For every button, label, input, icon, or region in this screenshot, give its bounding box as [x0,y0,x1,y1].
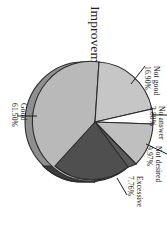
slice-label-excessive-name: Excessive [135,176,144,207]
rotated-chart-canvas: Improvement of roads [0,0,167,231]
slice-label-good: Good 61.50% [10,103,27,127]
slice-label-no-answer-value: 3.88% [148,106,157,140]
slice-label-good-name: Good [19,103,28,120]
slice-label-no-answer: No answer 3.88% [148,106,165,140]
slice-label-excessive-value: 7.76% [126,176,135,207]
pie-chart-figure: Improvement of roads [0,0,167,231]
slice-label-not-desired: Not desired 9.97% [145,146,162,182]
slice-label-not-good: Not good 16.90% [143,66,160,95]
slice-label-not-desired-name: Not desired [154,146,163,182]
slice-label-no-answer-name: No answer [157,106,166,140]
slice-label-not-good-name: Not good [152,66,161,95]
slice-label-excessive: Excessive 7.76% [126,176,143,207]
slice-label-not-good-value: 16.90% [143,66,152,95]
slice-label-not-desired-value: 9.97% [145,146,154,182]
slice-label-good-value: 61.50% [10,103,19,127]
